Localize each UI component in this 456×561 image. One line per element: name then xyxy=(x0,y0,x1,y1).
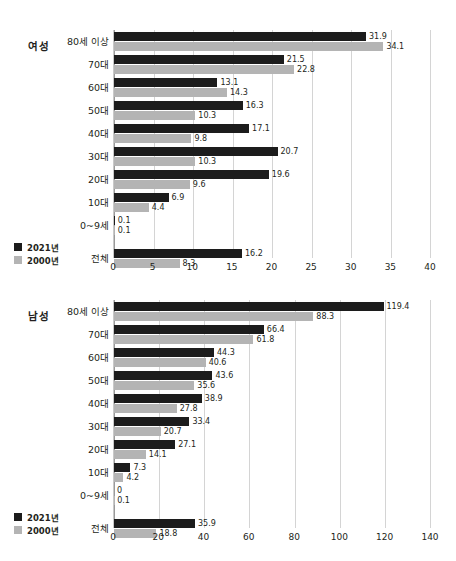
bar-2000: 9.8 xyxy=(114,134,191,143)
chart-row: 30대20.710.3 xyxy=(114,145,430,168)
bar-fill xyxy=(114,312,313,321)
chart-row: 60대44.340.6 xyxy=(114,346,430,369)
category-label: 0~9세 xyxy=(80,214,109,237)
bar-fill xyxy=(114,358,206,367)
bar-2021: 0.1 xyxy=(114,216,115,225)
bar-fill xyxy=(114,417,189,426)
bar-fill xyxy=(114,147,278,156)
x-axis-tick-label: 20 xyxy=(266,262,277,272)
bar-value-label: 17.1 xyxy=(252,124,270,133)
chart-female-x-axis: 0510152025303540 xyxy=(113,262,430,278)
x-axis-tick-label: 140 xyxy=(421,532,438,542)
chart-row: 40대38.927.8 xyxy=(114,392,430,415)
bar-2000: 4.4 xyxy=(114,203,149,212)
bar-2000: 27.8 xyxy=(114,404,177,413)
bar-2000: 14.3 xyxy=(114,88,227,97)
bar-fill xyxy=(114,216,115,225)
bar-2000: 10.3 xyxy=(114,157,195,166)
chart-row: 10대6.94.4 xyxy=(114,191,430,214)
x-axis-tick-label: 120 xyxy=(376,532,393,542)
chart-row: 70대21.522.8 xyxy=(114,53,430,76)
bar-2021: 43.6 xyxy=(114,371,212,380)
chart-row: 80세 이상31.934.1 xyxy=(114,30,430,53)
bar-fill xyxy=(114,42,383,51)
bar-value-label: 19.6 xyxy=(272,170,290,179)
bar-fill xyxy=(114,450,146,459)
bar-value-label: 27.8 xyxy=(180,404,198,413)
bar-value-label: 44.3 xyxy=(217,348,235,357)
chart-row: 10대7.34.2 xyxy=(114,461,430,484)
bar-value-label: 88.3 xyxy=(316,312,334,321)
bar-fill xyxy=(114,78,217,87)
bar-value-label: 0.1 xyxy=(118,216,131,225)
bar-2000: 4.2 xyxy=(114,473,123,482)
bar-2021: 13.1 xyxy=(114,78,217,87)
category-label: 50대 xyxy=(88,99,109,122)
chart-male-plot-area: 80세 이상119.488.370대66.461.860대44.340.650대… xyxy=(113,300,430,528)
chart-row: 0~9세00.1 xyxy=(114,484,430,507)
bar-fill xyxy=(114,335,253,344)
x-axis-tick-label: 35 xyxy=(385,262,396,272)
bar-2021: 66.4 xyxy=(114,325,264,334)
bar-fill xyxy=(114,348,214,357)
bar-value-label: 9.8 xyxy=(194,134,207,143)
x-axis-tick-label: 10 xyxy=(187,262,198,272)
bar-value-label: 33.4 xyxy=(192,417,210,426)
x-axis-tick-label: 60 xyxy=(243,532,254,542)
bar-value-label: 35.6 xyxy=(197,381,215,390)
category-label: 10대 xyxy=(88,191,109,214)
bar-value-label: 34.1 xyxy=(386,42,404,51)
legend-item-2000: 2000년 xyxy=(14,523,59,536)
bar-value-label: 27.1 xyxy=(178,440,196,449)
category-label: 30대 xyxy=(88,145,109,168)
bar-fill xyxy=(114,519,195,528)
bar-value-label: 0.1 xyxy=(118,226,131,235)
chart-row: 50대43.635.6 xyxy=(114,369,430,392)
chart-male: 남성 80세 이상119.488.370대66.461.860대44.340.6… xyxy=(0,290,456,561)
category-label: 10대 xyxy=(88,461,109,484)
x-axis-tick-label: 20 xyxy=(153,532,164,542)
chart-row: 70대66.461.8 xyxy=(114,323,430,346)
x-axis-tick-label: 0 xyxy=(110,262,116,272)
bar-value-label: 20.7 xyxy=(164,427,182,436)
chart-female-title: 여성 xyxy=(28,38,49,53)
legend-item-2021: 2021년 xyxy=(14,510,59,523)
bar-value-label: 10.3 xyxy=(198,111,216,120)
bar-2021: 19.6 xyxy=(114,170,269,179)
bar-value-label: 7.3 xyxy=(133,463,146,472)
legend-label-2000: 2000년 xyxy=(27,254,59,266)
category-label: 20대 xyxy=(88,438,109,461)
chart-female: 여성 80세 이상31.934.170대21.522.860대13.114.35… xyxy=(0,0,456,290)
chart-female-legend: 2021년 2000년 xyxy=(14,240,59,266)
bar-2021: 16.2 xyxy=(114,249,242,258)
bar-fill xyxy=(114,440,175,449)
bar-value-label: 16.3 xyxy=(246,101,264,110)
x-axis-tick-label: 25 xyxy=(305,262,316,272)
category-label: 30대 xyxy=(88,415,109,438)
x-axis-tick-label: 40 xyxy=(424,262,435,272)
chart-row: 80세 이상119.488.3 xyxy=(114,300,430,323)
bar-fill xyxy=(114,325,264,334)
bar-fill xyxy=(114,134,191,143)
bar-2021: 35.9 xyxy=(114,519,195,528)
chart-male-rows: 80세 이상119.488.370대66.461.860대44.340.650대… xyxy=(114,300,430,528)
chart-row: 40대17.19.8 xyxy=(114,122,430,145)
bar-value-label: 38.9 xyxy=(205,394,223,403)
bar-value-label: 10.3 xyxy=(198,157,216,166)
bar-2021: 20.7 xyxy=(114,147,278,156)
x-axis-tick-label: 15 xyxy=(226,262,237,272)
bar-value-label: 4.4 xyxy=(152,203,165,212)
category-label: 60대 xyxy=(88,76,109,99)
bar-2000: 9.6 xyxy=(114,180,190,189)
bar-fill xyxy=(114,101,243,110)
legend-label-2021: 2021년 xyxy=(27,241,59,253)
legend-swatch-2021-icon xyxy=(14,243,22,251)
x-axis-tick-label: 30 xyxy=(345,262,356,272)
bar-2000: 34.1 xyxy=(114,42,383,51)
bar-2000: 35.6 xyxy=(114,381,194,390)
x-axis-tick-label: 100 xyxy=(331,532,348,542)
category-label: 40대 xyxy=(88,122,109,145)
bar-2000: 10.3 xyxy=(114,111,195,120)
category-label: 60대 xyxy=(88,346,109,369)
category-label: 전체 xyxy=(91,247,109,270)
